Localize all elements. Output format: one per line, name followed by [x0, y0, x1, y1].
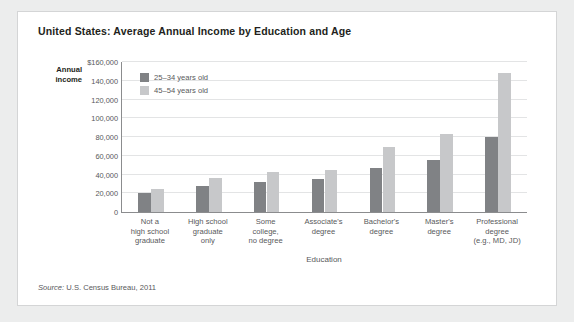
x-axis-tick-label-line: Some [237, 217, 295, 227]
bar [370, 168, 383, 212]
gridline [122, 136, 527, 137]
bar [196, 186, 209, 212]
bar [312, 179, 325, 212]
x-axis-tick-label-line: High school [179, 217, 237, 227]
x-axis-tick-label-line: degree [352, 227, 410, 237]
y-axis-tick-label: 120,000 [58, 95, 118, 104]
y-axis-tick-label: 60,000 [58, 151, 118, 160]
gridline [122, 117, 527, 118]
x-axis-tick-label-line: (e.g., MD, JD) [468, 236, 526, 246]
chart-title: United States: Average Annual Income by … [38, 25, 351, 37]
chart-legend: 25–34 years old45–54 years old [140, 71, 208, 97]
legend-item: 45–54 years old [140, 84, 208, 96]
x-axis-tick-label-line: Professional [468, 217, 526, 227]
x-axis-tick-label-line: no degree [237, 236, 295, 246]
y-axis-tick-label: 40,000 [58, 170, 118, 179]
x-axis-tick-label-line: graduate [179, 227, 237, 237]
gridline [122, 155, 527, 156]
x-axis-tick-label-line: degree [295, 227, 353, 237]
x-axis-tick-label: Associate'sdegree [295, 217, 353, 236]
legend-label: 25–34 years old [154, 73, 208, 82]
bar [138, 193, 151, 212]
bar [151, 189, 164, 212]
x-axis-tick-label-line: degree [410, 227, 468, 237]
legend-swatch [140, 73, 149, 82]
x-axis-tick-label-line: Bachelor's [352, 217, 410, 227]
source-text: U.S. Census Bureau, 2011 [64, 283, 156, 292]
gridline [122, 61, 527, 62]
legend-swatch [140, 86, 149, 95]
bar [383, 147, 396, 212]
source-note: Source: U.S. Census Bureau, 2011 [38, 283, 156, 292]
chart-card: United States: Average Annual Income by … [17, 11, 557, 306]
y-axis-tick-label: 140,000 [58, 76, 118, 85]
x-axis-tick-label-line: Master's [410, 217, 468, 227]
y-axis-tick-label: 0 [58, 208, 118, 217]
source-label: Source: [38, 283, 64, 292]
x-axis-tick-label: High schoolgraduateonly [179, 217, 237, 246]
y-axis-tick-label: 80,000 [58, 133, 118, 142]
bar [427, 160, 440, 213]
legend-label: 45–54 years old [154, 86, 208, 95]
y-axis-tick-labels: 020,00040,00060,00080,000100,000120,0001… [56, 62, 118, 213]
bar [498, 73, 511, 212]
bar [485, 137, 498, 212]
x-axis-tick-label-line: college, [237, 227, 295, 237]
x-axis-tick-label-line: Not a [121, 217, 179, 227]
x-axis-tick-label-line: high school [121, 227, 179, 237]
x-axis-title: Education [121, 255, 527, 264]
y-axis-tick-label: $160,000 [58, 58, 118, 67]
bar [440, 134, 453, 212]
legend-item: 25–34 years old [140, 71, 208, 83]
bar [254, 182, 267, 212]
x-axis-tick-label-line: graduate [121, 236, 179, 246]
x-axis-tick-label: Master'sdegree [410, 217, 468, 236]
x-axis-tick-label: Bachelor'sdegree [352, 217, 410, 236]
y-axis-tick-label: 100,000 [58, 114, 118, 123]
bar [209, 178, 222, 212]
x-axis-tick-label: Somecollege,no degree [237, 217, 295, 246]
y-axis-tick-label: 20,000 [58, 189, 118, 198]
gridline [122, 99, 527, 100]
bar [267, 172, 280, 212]
x-axis-tick-label-line: degree [468, 227, 526, 237]
x-axis-tick-label-line: only [179, 236, 237, 246]
x-axis-tick-label-line: Associate's [295, 217, 353, 227]
bar [325, 170, 338, 212]
x-axis-tick-label: Professionaldegree(e.g., MD, JD) [468, 217, 526, 246]
x-axis-tick-label: Not ahigh schoolgraduate [121, 217, 179, 246]
